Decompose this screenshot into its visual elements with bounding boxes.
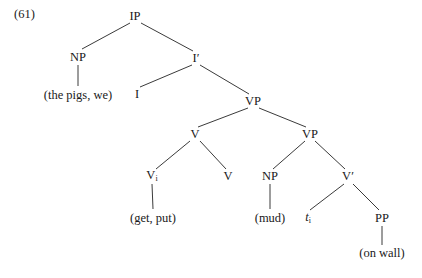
tree-node-label: IP xyxy=(129,9,140,23)
tree-node-np1-leaf: (the pigs, we) xyxy=(44,89,112,102)
tree-node-vp2: VP xyxy=(302,128,318,141)
tree-edge-vp2-to-vbar xyxy=(315,141,345,169)
tree-node-subscript: i xyxy=(309,216,311,225)
tree-node-pp-leaf: (on wall) xyxy=(359,247,404,260)
tree-node-label: V xyxy=(223,169,232,183)
syntax-tree-figure: (61) IPNPI′(the pigs, we)IVPVVPViVNPV′(g… xyxy=(0,0,422,278)
tree-edge-ibar-to-vp1 xyxy=(200,65,249,94)
tree-node-vbar: V′ xyxy=(342,170,354,183)
tree-node-label: VP xyxy=(302,127,318,141)
tree-edges xyxy=(0,0,422,278)
tree-node-vi: Vi xyxy=(146,169,157,183)
tree-edge-ibar-to-i xyxy=(140,65,192,87)
tree-edge-vbar-to-trace xyxy=(310,184,344,210)
tree-edge-vi-to-vi-leaf xyxy=(152,184,153,209)
tree-edge-vp1-to-v1 xyxy=(198,108,248,127)
tree-node-np1: NP xyxy=(70,51,86,64)
tree-node-label: PP xyxy=(375,211,389,225)
tree-node-label: (on wall) xyxy=(359,246,404,260)
tree-edge-ip-to-ibar xyxy=(141,23,193,51)
tree-node-subscript: i xyxy=(155,174,157,183)
tree-node-label: I′ xyxy=(193,51,200,65)
tree-node-v2: V xyxy=(223,170,232,183)
tree-node-v1: V xyxy=(190,128,199,141)
tree-node-pp: PP xyxy=(375,212,389,225)
tree-node-ip: IP xyxy=(129,10,140,23)
tree-node-label: (mud) xyxy=(255,211,286,225)
tree-node-trace: ti xyxy=(305,211,311,225)
tree-node-label: V xyxy=(146,168,155,182)
tree-node-label: (the pigs, we) xyxy=(44,88,112,102)
tree-node-ibar: I′ xyxy=(193,52,200,65)
tree-node-label: I xyxy=(135,87,139,101)
tree-edge-vbar-to-pp xyxy=(353,184,379,210)
tree-node-vi-leaf: (get, put) xyxy=(130,212,176,225)
tree-node-i: I xyxy=(135,88,139,101)
tree-node-np2-leaf: (mud) xyxy=(255,212,286,225)
tree-node-label: VP xyxy=(245,94,261,108)
tree-node-label: NP xyxy=(70,50,86,64)
tree-node-np2: NP xyxy=(262,170,278,183)
tree-edge-v1-to-v2 xyxy=(200,141,226,169)
tree-edge-vp2-to-np2 xyxy=(273,141,305,169)
tree-edge-v1-to-vi xyxy=(156,141,190,169)
tree-edge-ip-to-np1 xyxy=(82,23,130,49)
tree-node-label: NP xyxy=(262,169,278,183)
tree-node-vp1: VP xyxy=(245,95,261,108)
tree-edge-vp1-to-vp2 xyxy=(259,108,306,127)
tree-node-label: (get, put) xyxy=(130,211,176,225)
tree-node-label: V xyxy=(190,127,199,141)
tree-node-label: V′ xyxy=(342,169,354,183)
